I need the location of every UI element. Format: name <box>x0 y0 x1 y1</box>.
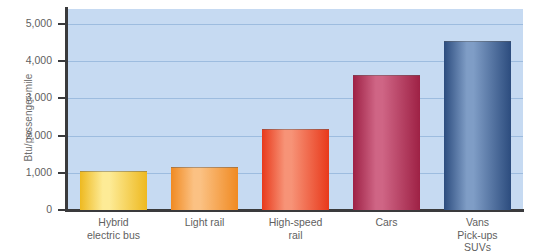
gridline <box>68 24 523 25</box>
category-label: High-speed rail <box>250 216 341 241</box>
bar-chart: Btu/passenger-mile 01,0002,0003,0004,000… <box>0 0 545 252</box>
bar <box>444 41 511 210</box>
bar <box>80 171 147 210</box>
y-axis-tick-label: 0 <box>46 203 52 215</box>
category-label: Light rail <box>159 216 250 229</box>
y-axis-tick <box>58 23 66 25</box>
y-axis-tick <box>58 172 66 174</box>
y-axis-tick <box>58 135 66 137</box>
y-axis-tick-label: 5,000 <box>26 17 52 29</box>
bar <box>353 75 420 210</box>
bar <box>262 129 329 210</box>
category-label: Cars <box>341 216 432 229</box>
y-axis-tick-label: 1,000 <box>26 166 52 178</box>
category-label: Hybrid electric bus <box>68 216 159 241</box>
y-axis-tick-label: 4,000 <box>26 54 52 66</box>
y-axis-tick-label: 3,000 <box>26 91 52 103</box>
y-axis-tick-label: 2,000 <box>26 129 52 141</box>
bar <box>171 167 238 210</box>
y-axis-line <box>65 7 68 211</box>
y-axis-tick <box>58 60 66 62</box>
category-label: Vans Pick-ups SUVs <box>432 216 523 252</box>
y-axis-tick <box>58 209 66 211</box>
y-axis-tick <box>58 97 66 99</box>
